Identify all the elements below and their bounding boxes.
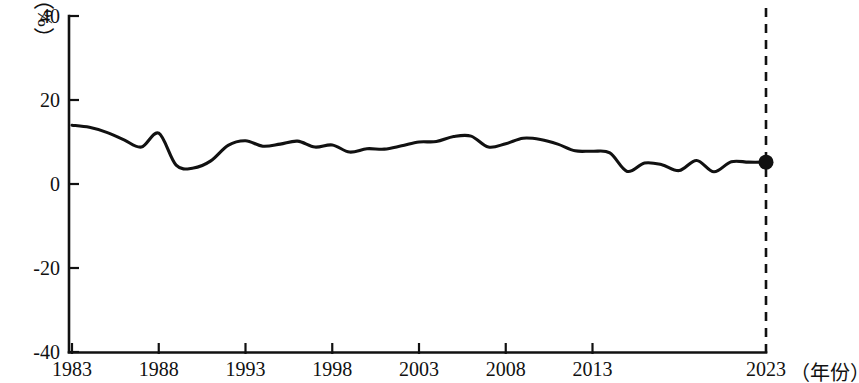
y-axis-tick-label: 0 <box>50 173 60 195</box>
chart-root: （%） 40200-20-40 198319881993199820032008… <box>0 0 859 383</box>
y-axis-ticks <box>69 16 79 352</box>
y-axis-tick-labels: 40200-20-40 <box>33 5 60 363</box>
x-axis-tick-label: 1993 <box>226 358 266 380</box>
x-axis-tick-label: 1983 <box>52 358 92 380</box>
y-axis-tick-label: 20 <box>40 89 60 111</box>
x-axis-tick-label: 1998 <box>312 358 352 380</box>
line-chart-plot: 40200-20-40 1983198819931998200320082013… <box>0 0 859 383</box>
data-series-line <box>72 125 766 172</box>
x-axis-tick-label: 2003 <box>399 358 439 380</box>
x-axis-unit-label: （年份） <box>790 357 859 383</box>
x-axis-tick-label: 2008 <box>486 358 526 380</box>
y-axis-tick-label: -20 <box>33 257 60 279</box>
x-axis-tick-label: 2013 <box>573 358 613 380</box>
y-axis-unit-label: （%） <box>28 0 58 48</box>
endpoint-marker-dot <box>759 155 774 170</box>
x-axis-tick-labels: 19831988199319982003200820132023 <box>52 358 786 380</box>
axes-group <box>69 16 766 353</box>
x-axis-tick-label: 2023 <box>746 358 786 380</box>
x-axis-tick-label: 1988 <box>139 358 179 380</box>
